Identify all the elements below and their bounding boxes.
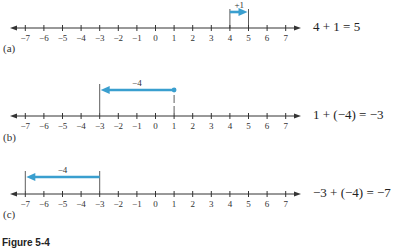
tick-label: −1 — [132, 33, 142, 43]
tick-label: −6 — [39, 33, 49, 43]
tick-label: 3 — [209, 199, 214, 209]
tick-label: 6 — [265, 121, 270, 131]
tick-label: 4 — [228, 33, 233, 43]
tick-label: 5 — [246, 33, 251, 43]
tick-label: 0 — [153, 121, 158, 131]
tick-label: 4 — [228, 199, 233, 209]
tick-label: −4 — [76, 121, 86, 131]
tick-label: −5 — [58, 33, 68, 43]
equation-c: −3 + (−4) = −7 — [313, 185, 391, 201]
equation-b: 1 + (−4) = −3 — [313, 107, 383, 123]
axis-right-arrow-icon — [294, 114, 301, 119]
tick-label: −1 — [132, 199, 142, 209]
tick-label: 6 — [265, 199, 270, 209]
tick-label: 6 — [265, 33, 270, 43]
axis-right-arrow-icon — [294, 192, 301, 197]
tick-label: −5 — [58, 199, 68, 209]
step-arrow-head-icon — [101, 86, 110, 94]
tick-label: −2 — [114, 121, 124, 131]
tick-label: −6 — [39, 121, 49, 131]
panel-label-b: (b) — [3, 131, 16, 143]
tick-label: −2 — [114, 33, 124, 43]
tick-label: 2 — [190, 33, 195, 43]
step-label: −4 — [132, 78, 142, 88]
tick-label: 1 — [172, 121, 177, 131]
tick-label: −6 — [39, 199, 49, 209]
equation-a: 4 + 1 = 5 — [313, 19, 360, 35]
axis-left-arrow-icon — [10, 114, 17, 119]
tick-label: −7 — [21, 33, 31, 43]
tick-label: −5 — [58, 121, 68, 131]
tick-label: −7 — [21, 199, 31, 209]
tick-label: 7 — [283, 33, 288, 43]
tick-label: 1 — [172, 33, 177, 43]
step-arrow-head-icon — [26, 173, 35, 181]
tick-label: −4 — [76, 199, 86, 209]
tick-label: 7 — [283, 199, 288, 209]
tick-label: 3 — [209, 33, 214, 43]
figure-caption: Figure 5-4 — [2, 237, 50, 248]
tick-label: 2 — [190, 199, 195, 209]
tick-label: 5 — [246, 199, 251, 209]
step-label: −4 — [58, 165, 68, 175]
tick-label: −3 — [95, 199, 105, 209]
step-label: +1 — [234, 0, 244, 10]
tick-label: −4 — [76, 33, 86, 43]
tick-label: 7 — [283, 121, 288, 131]
tick-label: 2 — [190, 121, 195, 131]
tick-label: −1 — [132, 121, 142, 131]
tick-label: 1 — [172, 199, 177, 209]
panel-label-a: (a) — [3, 42, 15, 54]
tick-label: 5 — [246, 121, 251, 131]
tick-label: 4 — [228, 121, 233, 131]
panel-label-c: (c) — [3, 208, 15, 220]
axis-left-arrow-icon — [10, 26, 17, 31]
tick-label: 0 — [153, 199, 158, 209]
axis-left-arrow-icon — [10, 192, 17, 197]
tick-label: −3 — [95, 33, 105, 43]
tick-label: 0 — [153, 33, 158, 43]
axis-right-arrow-icon — [294, 26, 301, 31]
tick-label: −7 — [21, 121, 31, 131]
tick-label: −2 — [114, 199, 124, 209]
tick-label: 3 — [209, 121, 214, 131]
tick-label: −3 — [95, 121, 105, 131]
